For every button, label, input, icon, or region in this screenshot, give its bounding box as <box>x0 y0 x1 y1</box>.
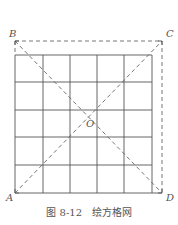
label-b: B <box>9 28 16 39</box>
dashed-diagonals <box>15 41 162 193</box>
label-c: C <box>166 28 174 39</box>
label-a: A <box>6 192 13 203</box>
label-o: O <box>86 118 94 129</box>
figure-caption: 图 8-12 绘方格网 <box>0 204 178 219</box>
label-d: D <box>166 192 174 203</box>
grid-diagram <box>0 0 178 225</box>
